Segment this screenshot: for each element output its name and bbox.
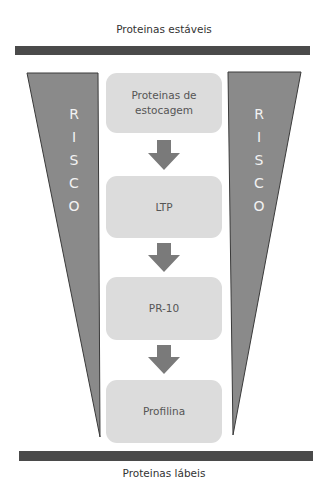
bottom-label: Proteinas lábeis [0, 467, 328, 479]
arrow-down-icon [148, 345, 180, 374]
bottom-bar [19, 451, 313, 461]
risk-label-right: R I S C O [249, 103, 269, 218]
box-profilin: Profilina [106, 380, 222, 443]
arrow-down-icon [148, 140, 180, 170]
box-ltp: LTP [106, 176, 222, 238]
box-pr10: PR-10 [106, 277, 222, 340]
arrow-down-icon [148, 243, 180, 272]
box-storage-proteins: Proteinas de estocagem [106, 73, 222, 133]
risk-label-left: R I S C O [64, 103, 84, 218]
